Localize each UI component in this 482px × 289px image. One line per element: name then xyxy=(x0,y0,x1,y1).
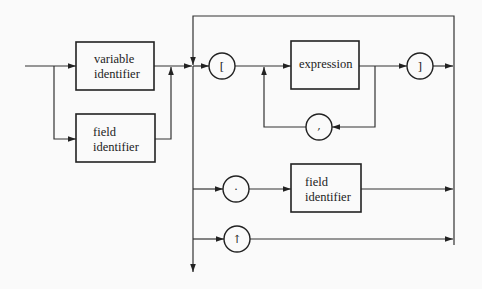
field-identifier-box-left: field identifier xyxy=(76,114,155,162)
open-bracket-terminal: [ xyxy=(209,53,235,79)
close-bracket-terminal: ] xyxy=(407,53,433,79)
field-identifier-right-label-line2: identifier xyxy=(305,190,352,204)
variable-identifier-box: variable identifier xyxy=(76,42,154,90)
syntax-diagram: variable identifier field identifier exp… xyxy=(0,0,482,289)
close-bracket-symbol: ] xyxy=(418,60,422,73)
variable-identifier-label-line2: identifier xyxy=(94,67,141,81)
field-identifier-box-right: field identifier xyxy=(291,164,361,212)
expression-label: expression xyxy=(299,57,353,71)
variable-identifier-label-line1: variable xyxy=(94,52,135,66)
comma-terminal: , xyxy=(306,114,332,140)
field-identifier-left-label-line1: field xyxy=(93,125,117,139)
open-bracket-symbol: [ xyxy=(220,60,224,73)
expression-box: expression xyxy=(291,41,359,89)
comma-symbol: , xyxy=(317,119,321,132)
period-terminal: . xyxy=(223,176,249,202)
field-identifier-right-label-line1: field xyxy=(305,175,329,189)
field-identifier-left-label-line2: identifier xyxy=(93,140,140,154)
pointer-terminal: ↑ xyxy=(224,226,250,252)
period-symbol: . xyxy=(234,180,238,193)
up-arrow-symbol: ↑ xyxy=(232,233,241,246)
